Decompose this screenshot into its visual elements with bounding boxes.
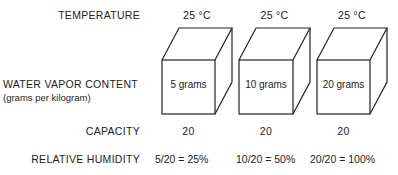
capacity-label: CAPACITY <box>86 125 140 137</box>
temperature-value-1: 25 °C <box>162 9 232 21</box>
content-value-1: 5 grams <box>162 79 215 90</box>
cube-2 <box>239 28 310 114</box>
rh-value-2: 10/20 = 50% <box>236 153 295 165</box>
capacity-value-3: 20 <box>317 125 370 137</box>
water-vapor-label: WATER VAPOR CONTENT <box>3 78 138 90</box>
content-value-2: 10 grams <box>239 79 293 90</box>
capacity-value-2: 20 <box>239 125 293 137</box>
temperature-value-3: 25 °C <box>317 9 387 21</box>
capacity-value-1: 20 <box>162 125 215 137</box>
cube-3 <box>317 28 387 114</box>
cube-1 <box>162 28 232 114</box>
rh-value-3: 20/20 = 100% <box>310 153 375 165</box>
temperature-label: TEMPERATURE <box>58 9 140 21</box>
temperature-value-2: 25 °C <box>239 9 310 21</box>
water-vapor-unit: (grams per kilogram) <box>3 92 91 103</box>
rh-value-1: 5/20 = 25% <box>155 153 208 165</box>
relative-humidity-label: RELATIVE HUMIDITY <box>31 153 140 165</box>
content-value-3: 20 grams <box>317 79 370 90</box>
